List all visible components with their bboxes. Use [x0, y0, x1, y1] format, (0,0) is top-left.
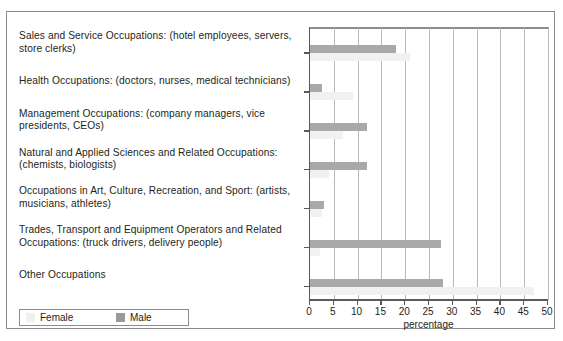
category-tick [304, 130, 310, 131]
gridline [548, 28, 549, 300]
x-axis-tick-label: 0 [306, 306, 312, 317]
category-label: Trades, Transport and Equipment Operator… [19, 224, 305, 249]
bar-group [310, 240, 548, 256]
bar-female [310, 287, 534, 295]
x-axis-tick [357, 299, 358, 305]
chart-figure: Sales and Service Occupations: (hotel em… [6, 11, 555, 329]
category-label: Sales and Service Occupations: (hotel em… [19, 30, 305, 55]
legend-entry-male[interactable]: Male [116, 312, 152, 323]
category-label: Health Occupations: (doctors, nurses, me… [19, 75, 305, 88]
x-axis-tick [476, 299, 477, 305]
x-axis-tick [380, 299, 381, 305]
category-tick [304, 247, 310, 248]
category-label: Management Occupations: (company manager… [19, 108, 305, 133]
bar-group [310, 162, 548, 178]
x-axis-tick-label: 20 [399, 306, 410, 317]
x-axis-tick-label: 30 [446, 306, 457, 317]
category-tick [304, 52, 310, 53]
legend-swatch-female [26, 313, 35, 322]
category-label-column: Sales and Service Occupations: (hotel em… [7, 12, 307, 328]
x-axis-tick [428, 299, 429, 305]
bar-female [310, 131, 343, 139]
x-axis-tick [523, 299, 524, 305]
x-axis-tick [309, 299, 310, 305]
x-axis-tick-label: 15 [375, 306, 386, 317]
x-axis-tick [452, 299, 453, 305]
bar-male [310, 240, 441, 248]
bar-group [310, 84, 548, 100]
x-axis-tick-label: 50 [541, 306, 552, 317]
plot-area [309, 27, 549, 300]
legend-label: Male [130, 312, 152, 323]
bar-male [310, 45, 396, 53]
bar-group [310, 279, 548, 295]
x-axis-tick [499, 299, 500, 305]
category-tick [304, 286, 310, 287]
x-axis-title: percentage [309, 319, 548, 330]
x-axis-tick-label: 40 [494, 306, 505, 317]
bar-female [310, 92, 353, 100]
bar-female [310, 248, 320, 256]
category-label: Natural and Applied Sciences and Related… [19, 147, 305, 172]
x-axis-tick-label: 10 [351, 306, 362, 317]
bar-group [310, 45, 548, 61]
bar-male [310, 123, 367, 131]
x-axis-tick-label: 35 [470, 306, 481, 317]
x-axis-tick [547, 299, 548, 305]
legend-entry-female[interactable]: Female [26, 312, 73, 323]
bar-male [310, 84, 322, 92]
x-axis-tick-label: 25 [422, 306, 433, 317]
x-axis-tick [404, 299, 405, 305]
category-label: Occupations in Art, Culture, Recreation,… [19, 185, 305, 210]
bar-group [310, 201, 548, 217]
category-tick [304, 169, 310, 170]
bar-female [310, 170, 329, 178]
x-axis-tick-label: 45 [518, 306, 529, 317]
bar-group [310, 123, 548, 139]
category-label: Other Occupations [19, 269, 305, 282]
legend-swatch-male [116, 313, 125, 322]
bar-male [310, 201, 324, 209]
category-tick [304, 91, 310, 92]
category-tick [304, 208, 310, 209]
bar-female [310, 209, 322, 217]
bar-male [310, 162, 367, 170]
bar-female [310, 53, 410, 61]
x-axis-tick-label: 5 [330, 306, 336, 317]
bar-male [310, 279, 443, 287]
legend-label: Female [40, 312, 73, 323]
x-axis-tick [333, 299, 334, 305]
chart-legend: FemaleMale [19, 309, 189, 326]
